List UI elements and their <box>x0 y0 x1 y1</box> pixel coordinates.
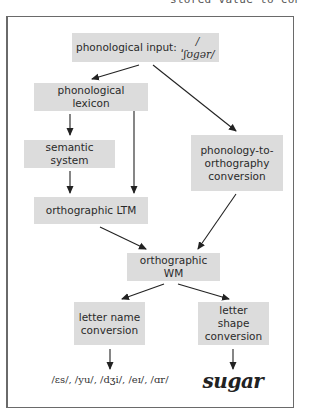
node-phonological-lexicon: phonological lexicon <box>34 83 148 111</box>
node-label-line1: letter name <box>79 311 141 324</box>
node-label-line3: conversion <box>208 170 265 183</box>
node-phonological-input: phonological input: /ˈʃʊgər/ <box>72 33 219 62</box>
ipa-transcription: /ˈʃʊgər/ <box>180 35 215 61</box>
node-orthographic-ltm: orthographic LTM <box>34 197 148 224</box>
node-label: phonological input: <box>76 41 180 54</box>
arrow-p2o-to-wm <box>198 194 236 249</box>
arrow-input-to-lexicon <box>92 65 139 79</box>
node-letter-shape-conversion: letter shape conversion <box>198 302 269 345</box>
node-label: orthographic LTM <box>46 204 137 217</box>
node-label-line2: conversion <box>81 324 138 337</box>
node-label-line2: orthography <box>205 157 270 170</box>
output-letter-shapes: sugar <box>193 369 273 393</box>
node-semantic-system: semantic system <box>24 140 115 168</box>
arrow-ltm-to-wm <box>100 227 146 249</box>
node-label: phonological lexicon <box>38 84 144 110</box>
arrow-input-to-p2o <box>153 65 236 131</box>
node-phonology-to-orthography: phonology-to- orthography conversion <box>191 135 283 191</box>
node-orthographic-wm: orthographic WM <box>127 253 220 281</box>
output-letter-names: /ɛs/, /yu/, /dʒi/, /eɪ/, /ɑr/ <box>40 374 180 385</box>
node-letter-name-conversion: letter name conversion <box>74 302 145 345</box>
node-label-line2: conversion <box>205 330 262 343</box>
node-label-line1: letter shape <box>202 304 265 330</box>
node-label: semantic system <box>28 141 111 167</box>
node-label-line1: phonology-to- <box>200 144 273 157</box>
node-label: orthographic WM <box>131 254 216 280</box>
arrow-wm-to-letter-name <box>122 284 164 299</box>
arrow-wm-to-letter-shape <box>178 284 229 299</box>
